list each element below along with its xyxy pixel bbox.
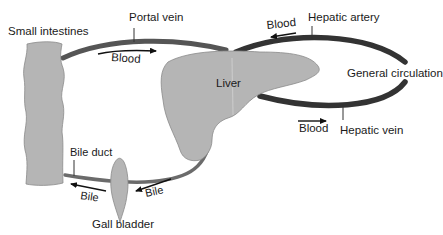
vein-blood-label: Blood [299, 122, 328, 134]
portal-blood-label: Blood [111, 51, 141, 65]
hepatic-vein-label: Hepatic vein [340, 124, 403, 136]
hepatic-artery-label: Hepatic artery [308, 11, 380, 23]
enterohepatic-circulation-diagram: Small intestines Portal vein Blood Blood… [0, 0, 443, 235]
small-intestines-label: Small intestines [8, 25, 89, 37]
bile-left-label: Bile [80, 189, 100, 203]
bile-right-label: Bile [144, 183, 164, 199]
small-intestines-shape [24, 42, 65, 186]
artery-blood-label: Blood [266, 16, 297, 31]
gall-bladder-label: Gall bladder [92, 218, 154, 230]
general-circulation-label: General circulation [347, 67, 443, 79]
bile-duct-label: Bile duct [70, 146, 112, 158]
liver-label: Liver [216, 77, 241, 89]
portal-vein-label: Portal vein [129, 11, 183, 23]
gall-bladder-shape [111, 158, 128, 222]
